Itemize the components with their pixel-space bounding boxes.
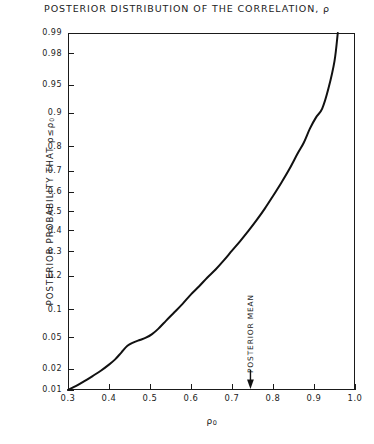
chart-figure: POSTERIOR DISTRIBUTION OF THE CORRELATIO…: [0, 0, 374, 444]
y-tick-label: 0.95: [20, 80, 62, 89]
y-tick-label: 0.8: [20, 142, 62, 151]
chart-title: POSTERIOR DISTRIBUTION OF THE CORRELATIO…: [0, 3, 374, 14]
x-tick-label: 0.7: [212, 393, 252, 403]
y-tick-label: 0.6: [20, 187, 62, 196]
x-tick-label: 0.6: [171, 393, 211, 403]
y-tick-label: 0.05: [20, 333, 62, 342]
y-tick-label: 0.9: [20, 108, 62, 117]
x-axis-label: ρ0: [68, 416, 356, 427]
y-tick-label: 0.3: [20, 247, 62, 256]
x-tick-label: 0.4: [89, 393, 129, 403]
y-tick-label: 0.98: [20, 49, 62, 58]
x-tick-label: 1.0: [335, 393, 374, 403]
x-tick-label: 0.3: [48, 393, 88, 403]
posterior-cdf-line: [68, 33, 338, 390]
x-tick-label: 0.8: [253, 393, 293, 403]
x-tick-label: 0.5: [130, 393, 170, 403]
posterior-cdf-curve: [68, 33, 355, 390]
y-tick-label: 0.7: [20, 166, 62, 175]
y-tick-label: 0.1: [20, 305, 62, 314]
y-tick-label: 0.5: [20, 207, 62, 216]
y-tick-label: 0.2: [20, 271, 62, 280]
y-tick-label: 0.99: [20, 28, 62, 37]
x-tick-label: 0.9: [294, 393, 334, 403]
y-tick-label: 0.02: [20, 364, 62, 373]
y-tick-label: 0.4: [20, 226, 62, 235]
